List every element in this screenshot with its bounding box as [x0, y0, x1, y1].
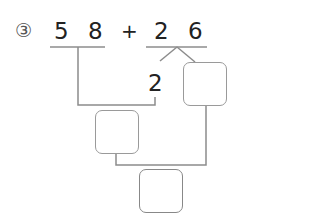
answer-box-split[interactable]	[183, 62, 227, 106]
answer-box-partial-sum[interactable]	[95, 110, 139, 154]
answer-box-final-sum[interactable]	[139, 169, 183, 213]
